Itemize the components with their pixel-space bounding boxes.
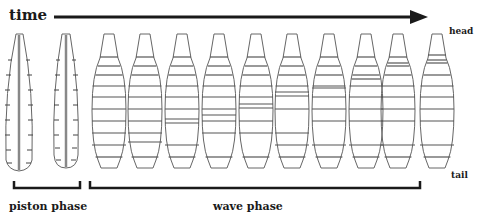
larva-wave-7 [312,34,346,168]
time-arrow [54,10,428,24]
larva-wave-8 [349,34,383,168]
time-label: time [9,6,47,24]
wave-phase-bracket [90,181,420,188]
tail-label: tail [451,170,468,180]
larva-wave-6 [275,34,309,168]
larva-wave-9 [381,34,415,168]
larva-wave-4 [202,34,236,168]
larva-wave-2 [128,34,162,168]
piston-phase-label: piston phase [9,200,87,213]
larva-piston-2 [54,34,79,168]
wave-phase-label: wave phase [213,200,283,213]
larva-diagram [0,0,484,221]
larva-wave-5 [239,34,273,168]
larva-piston-1 [5,34,33,171]
piston-phase-bracket [14,181,80,188]
larva-wave-3 [165,34,199,168]
larva-wave-10 [420,34,454,168]
wave-phase-larvae [92,34,454,168]
head-label: head [449,26,473,36]
larva-wave-1 [92,34,126,168]
